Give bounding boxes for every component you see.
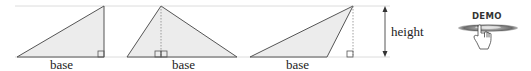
arrow-up-icon: [383, 6, 388, 12]
height-arrow: [383, 6, 388, 57]
base-label-2: base: [172, 57, 195, 71]
demo-button-label: DEMO: [472, 11, 502, 21]
arrow-down-icon: [383, 51, 388, 57]
triangle-3: [250, 6, 353, 57]
height-label: height: [391, 24, 424, 39]
triangle-1: [17, 6, 104, 57]
base-label-3: base: [286, 57, 309, 71]
triangle-2: [127, 6, 237, 57]
base-label-1: base: [50, 57, 73, 71]
right-angle-marker: [347, 51, 353, 57]
demo-button[interactable]: DEMO: [458, 11, 518, 49]
triangle-base-height-diagram: base base base height DEMO: [0, 0, 531, 71]
